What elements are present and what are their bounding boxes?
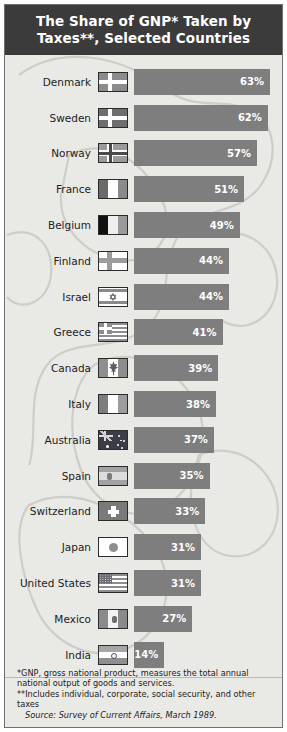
chart-row: Sweden 62% — [5, 100, 282, 136]
bar-track: 41% — [134, 319, 282, 345]
bar-value-label: 27% — [162, 613, 186, 624]
country-label: Switzerland — [5, 505, 98, 517]
bar: 57% — [134, 140, 257, 166]
bar-track: 44% — [134, 248, 282, 274]
flag-sweden-icon — [98, 108, 128, 128]
country-label: Sweden — [5, 112, 98, 124]
chart-row: Italy38% — [5, 386, 282, 422]
bar: 33% — [134, 498, 205, 524]
chart-row: France51% — [5, 171, 282, 207]
bar: 27% — [134, 606, 192, 632]
country-label: Israel — [5, 291, 98, 303]
chart-row: Australia 37% — [5, 422, 282, 458]
country-label: Italy — [5, 398, 98, 410]
bar-track: 27% — [134, 606, 282, 632]
country-label: India — [5, 649, 98, 661]
bar-value-label: 63% — [240, 76, 264, 87]
page-title: The Share of GNP* Taken by Taxes**, Sele… — [5, 13, 282, 47]
chart-row: Israel 44% — [5, 279, 282, 315]
bar: 44% — [134, 284, 229, 310]
chart-row: Switzerland 33% — [5, 494, 282, 530]
chart-row: Greece 41% — [5, 315, 282, 351]
country-label: Denmark — [5, 76, 98, 88]
bar-value-label: 39% — [188, 363, 212, 374]
bar-value-label: 33% — [175, 506, 199, 517]
flag-norway-icon — [98, 143, 128, 163]
bar: 51% — [134, 176, 244, 202]
bar-value-label: 14% — [134, 649, 158, 660]
chart-row: Denmark 63% — [5, 64, 282, 100]
bar-track: 38% — [134, 391, 282, 417]
flag-japan-icon — [98, 537, 128, 557]
flag-france-icon — [98, 179, 128, 199]
country-label: Finland — [5, 255, 98, 267]
flag-greece-icon — [98, 322, 128, 342]
country-label: Japan — [5, 541, 98, 553]
country-label: Spain — [5, 470, 98, 482]
flag-mexico-icon — [98, 609, 128, 629]
bar-track: 63% — [134, 69, 282, 95]
country-label: France — [5, 183, 98, 195]
bar-value-label: 44% — [199, 255, 223, 266]
bar: 37% — [134, 427, 214, 453]
bar-value-label: 38% — [186, 399, 210, 410]
chart-row: United States 31% — [5, 565, 282, 601]
country-label: United States — [5, 577, 98, 589]
bar-track: 37% — [134, 427, 282, 453]
bar-chart: Denmark 63%Sweden 62%Norway 57%France51%… — [5, 55, 282, 673]
bar: 62% — [134, 105, 268, 131]
footnote-taxes: **Includes individual, corporate, social… — [17, 689, 272, 710]
bar-value-label: 41% — [193, 327, 217, 338]
flag-australia-icon — [98, 430, 128, 450]
bar: 31% — [134, 534, 201, 560]
chart-row: Japan 31% — [5, 529, 282, 565]
country-label: Greece — [5, 326, 98, 338]
flag-italy-icon — [98, 394, 128, 414]
flag-united-states-icon — [98, 573, 128, 593]
bar: 38% — [134, 391, 216, 417]
bar-track: 35% — [134, 463, 282, 489]
bar: 41% — [134, 319, 223, 345]
bar-value-label: 62% — [238, 112, 262, 123]
bar-value-label: 44% — [199, 291, 223, 302]
country-label: Norway — [5, 147, 98, 159]
bar-track: 51% — [134, 176, 282, 202]
country-label: Canada — [5, 362, 98, 374]
flag-switzerland-icon — [98, 501, 128, 521]
bar-track: 57% — [134, 140, 282, 166]
bar-value-label: 37% — [184, 434, 208, 445]
bar-track: 39% — [134, 355, 282, 381]
bar: 63% — [134, 69, 270, 95]
bar-value-label: 35% — [180, 470, 204, 481]
infographic-poster: The Share of GNP* Taken by Taxes**, Sele… — [4, 4, 283, 728]
bar-track: 31% — [134, 570, 282, 596]
chart-row: Mexico 27% — [5, 601, 282, 637]
chart-row: Canada 39% — [5, 350, 282, 386]
chart-row: Spain 35% — [5, 458, 282, 494]
flag-spain-icon — [98, 466, 128, 486]
flag-denmark-icon — [98, 72, 128, 92]
country-label: Belgium — [5, 219, 98, 231]
chart-row: Norway 57% — [5, 136, 282, 172]
country-label: Mexico — [5, 613, 98, 625]
flag-belgium-icon — [98, 215, 128, 235]
bar-value-label: 31% — [171, 578, 195, 589]
bar-track: 33% — [134, 498, 282, 524]
bar-track: 62% — [134, 105, 282, 131]
chart-row: Finland 44% — [5, 243, 282, 279]
bar: 44% — [134, 248, 229, 274]
country-label: Australia — [5, 434, 98, 446]
bar-track: 44% — [134, 284, 282, 310]
bar-value-label: 49% — [210, 220, 234, 231]
chart-row: Belgium49% — [5, 207, 282, 243]
bar-value-label: 57% — [227, 148, 251, 159]
bar-value-label: 51% — [214, 184, 238, 195]
footnotes: *GNP, gross national product, measures t… — [5, 660, 282, 727]
bar-track: 31% — [134, 534, 282, 560]
bar: 31% — [134, 570, 201, 596]
bar-value-label: 31% — [171, 542, 195, 553]
bar: 49% — [134, 212, 240, 238]
footnote-gnp: *GNP, gross national product, measures t… — [17, 668, 272, 689]
flag-canada-icon — [98, 358, 128, 378]
flag-finland-icon — [98, 251, 128, 271]
